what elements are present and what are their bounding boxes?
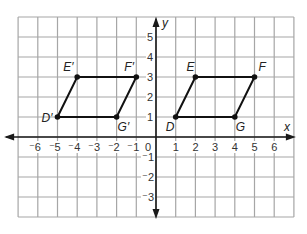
x-tick-label: 4: [232, 141, 238, 153]
y-axis-label: y: [161, 16, 169, 30]
vertex-point: [252, 74, 258, 80]
x-tick-label: ⁻3: [88, 141, 100, 153]
y-tick-label: 5: [147, 31, 153, 43]
y-tick-label: 2: [147, 91, 153, 103]
vertex-label: E: [186, 60, 195, 74]
y-tick-label: 3: [147, 71, 153, 83]
x-tick-label: ⁻1: [127, 141, 139, 153]
y-tick-label: 4: [147, 51, 153, 63]
vertex-point: [74, 74, 80, 80]
x-tick-label: 1: [173, 141, 179, 153]
x-tick-label: ⁻6: [29, 141, 41, 153]
vertex-label: G: [236, 120, 245, 134]
vertex-label: D′: [42, 111, 54, 125]
x-tick-label: 5: [252, 141, 258, 153]
vertex-point: [114, 114, 120, 120]
vertex-label: F: [259, 60, 267, 74]
vertex-point: [55, 114, 61, 120]
y-tick-label: 1: [147, 111, 153, 123]
y-tick-label: ⁻3: [142, 191, 154, 203]
y-tick-label: ⁻2: [142, 171, 154, 183]
x-axis-label: x: [283, 120, 291, 134]
x-tick-label: 3: [212, 141, 218, 153]
vertex-label: D: [166, 120, 175, 134]
vertex-label: E′: [63, 60, 74, 74]
vertex-point: [173, 114, 179, 120]
coordinate-plane: xy ⁻6⁻5⁻4⁻3⁻2⁻1012345654321⁻1⁻2⁻3 DEFGD′…: [0, 0, 307, 234]
y-tick-label: ⁻1: [142, 151, 154, 163]
vertex-point: [232, 114, 238, 120]
x-axis-arrow-left-icon: [4, 134, 14, 141]
x-tick-label: ⁻4: [68, 141, 80, 153]
x-tick-label: ⁻2: [108, 141, 120, 153]
x-tick-label: 2: [192, 141, 198, 153]
vertex-point: [193, 74, 199, 80]
vertex-point: [134, 74, 140, 80]
x-tick-label: ⁻5: [49, 141, 61, 153]
vertex-label: G′: [118, 120, 130, 134]
vertex-label: F′: [124, 60, 134, 74]
x-tick-label: 6: [271, 141, 277, 153]
y-axis-arrow-up-icon: [153, 17, 160, 27]
